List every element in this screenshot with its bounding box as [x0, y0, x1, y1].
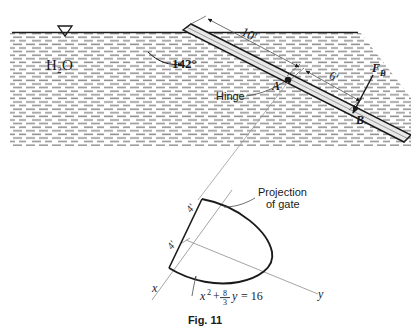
equation-plus: + — [213, 289, 220, 303]
projection-label: Projection of gate — [258, 186, 310, 210]
equation-fraction-numerator: 8 — [223, 289, 227, 298]
ext-line-10-left — [189, 16, 206, 25]
projection-leader-line — [224, 198, 255, 207]
equation-y: y — [231, 289, 238, 303]
equation-x: x — [199, 289, 206, 303]
figure-container: H₂O 142° 10' 6' Hinge A FB B — [0, 0, 411, 334]
hinge-label: Hinge — [216, 90, 245, 102]
hydrostatics-gate-diagram: H₂O 142° 10' 6' Hinge A FB B — [0, 0, 411, 334]
point-a-label: A — [271, 79, 280, 93]
projection-dimension-lower: 4' — [165, 238, 179, 251]
water-hatching — [10, 33, 411, 146]
axis-x-label: x — [151, 281, 158, 295]
axis-y-line — [186, 240, 318, 294]
gate-projection-figure: 4' 4' x y Projection of gate x 2 + 8 3 y… — [151, 186, 324, 307]
equation-fraction-denominator: 3 — [223, 298, 227, 307]
axis-y-label: y — [317, 287, 324, 301]
fluid-label: H₂O — [46, 57, 73, 73]
equation-rhs: = 16 — [241, 289, 263, 303]
angle-label: 142° — [172, 56, 197, 71]
parabola-equation: x 2 + 8 3 y = 16 — [199, 288, 263, 307]
equation-exponent: 2 — [207, 288, 211, 297]
water-body — [10, 33, 411, 147]
figure-caption: Fig. 11 — [188, 314, 222, 326]
point-b-label: B — [355, 113, 364, 127]
